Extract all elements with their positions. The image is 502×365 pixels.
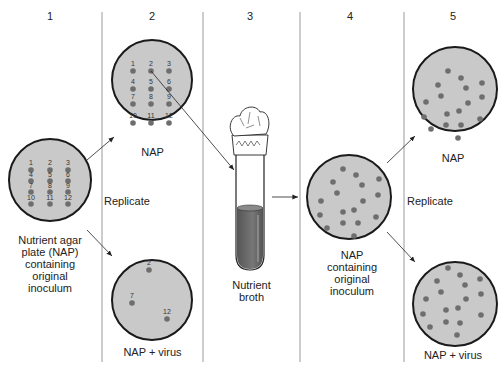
colony-number: 10 bbox=[129, 112, 137, 119]
replica-plating-diagram: 1 2 3 4 5 6 7 8 9 10 11 12 1 2 3 4 bbox=[0, 0, 502, 365]
original-plate-label: Nutrient agar plate (NAP) containing ori… bbox=[2, 234, 98, 294]
colony-number: 2 bbox=[48, 159, 52, 166]
broth-label: Nutrient broth bbox=[203, 279, 300, 303]
label-line: original bbox=[2, 270, 98, 282]
colony-number: 6 bbox=[66, 171, 70, 178]
colony-number: 7 bbox=[29, 182, 33, 189]
replicate-label-5: Replicate bbox=[407, 195, 453, 207]
label-line: inoculum bbox=[300, 285, 404, 297]
colony-number: 5 bbox=[149, 78, 153, 85]
nap-virus-plate-5 bbox=[413, 262, 497, 346]
colony-number: 12 bbox=[64, 194, 72, 201]
colony-number: 7 bbox=[130, 292, 134, 299]
colony-number: 3 bbox=[167, 60, 171, 67]
label-line: plate (NAP) bbox=[2, 246, 98, 258]
nap-virus-label-5: NAP + virus bbox=[404, 349, 502, 361]
replicate-label: Replicate bbox=[104, 195, 150, 207]
nutrient-broth-tube bbox=[230, 107, 269, 270]
colony-number: 6 bbox=[167, 78, 171, 85]
label-line: NAP bbox=[300, 249, 404, 261]
label-line: containing bbox=[2, 258, 98, 270]
colony-number: 5 bbox=[48, 171, 52, 178]
colony-number: 8 bbox=[149, 93, 153, 100]
nap-label: NAP bbox=[102, 146, 203, 158]
colony-number: 2 bbox=[149, 60, 153, 67]
colony-number: 4 bbox=[29, 171, 33, 178]
label-line: original bbox=[300, 273, 404, 285]
colony-number: 8 bbox=[48, 182, 52, 189]
colony-number: 2 bbox=[147, 259, 151, 266]
colony-number: 12 bbox=[163, 308, 171, 315]
nap-inoculum-label: NAP containing original inoculum bbox=[300, 249, 404, 297]
colony-number: 10 bbox=[27, 194, 35, 201]
label-line: Nutrient agar bbox=[2, 234, 98, 246]
original-nap-plate: 1 2 3 4 5 6 7 8 9 10 11 12 bbox=[9, 139, 91, 221]
nap-label-5: NAP bbox=[404, 152, 502, 164]
nap-virus-label: NAP + virus bbox=[102, 346, 203, 358]
colony-number: 1 bbox=[29, 159, 33, 166]
label-line: containing bbox=[300, 261, 404, 273]
colony-number: 11 bbox=[46, 194, 53, 201]
colony-number: 1 bbox=[131, 60, 135, 67]
colony-number: 11 bbox=[147, 112, 154, 119]
nap-virus-plate: 2 7 12 bbox=[112, 259, 192, 340]
nap-replica-plate-5 bbox=[413, 47, 497, 141]
colony-number: 12 bbox=[165, 112, 173, 119]
nap-inoculum-plate bbox=[307, 155, 391, 239]
colony-number: 7 bbox=[131, 93, 135, 100]
label-line: Nutrient bbox=[203, 279, 300, 291]
colony-number: 9 bbox=[66, 182, 70, 189]
nap-replica-plate: 1 2 3 4 5 6 7 8 9 10 11 12 bbox=[112, 40, 192, 126]
colony-number: 4 bbox=[131, 78, 135, 85]
label-line: inoculum bbox=[2, 282, 98, 294]
label-line: broth bbox=[203, 291, 300, 303]
colony-number: 3 bbox=[66, 159, 70, 166]
